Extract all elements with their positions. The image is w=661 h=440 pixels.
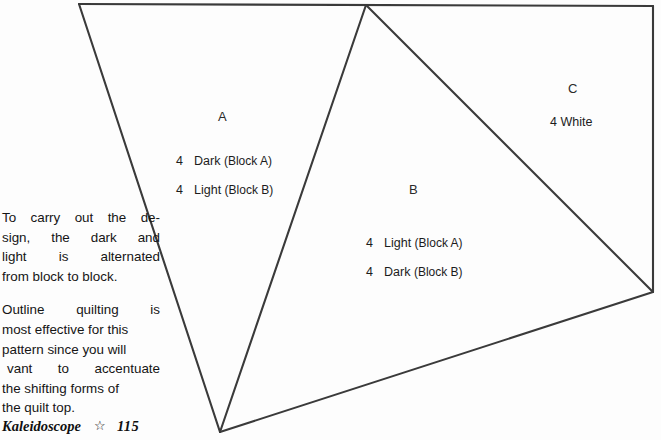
region-a-piece-2: 4Light (Block B) (176, 183, 273, 197)
region-b-piece-2-qty: 4 (366, 265, 384, 279)
region-b-piece-1-qty: 4 (366, 236, 384, 250)
bottom-edge (220, 292, 653, 432)
region-c-piece-1-qty: 4 (550, 115, 557, 129)
page-footer: Kaleidoscope☆115 (2, 418, 139, 435)
region-label-a: A (218, 109, 227, 124)
para2-line1: Outline quilting is (2, 300, 160, 320)
para2-line2: most effective for this (2, 320, 160, 340)
region-a-piece-1: 4Dark (Block A) (176, 154, 272, 168)
region-label-b: B (409, 182, 418, 197)
region-label-c: C (568, 81, 578, 96)
region-a-piece-1-qty: 4 (176, 154, 194, 168)
para2-line3: pattern since you will (2, 340, 160, 360)
region-a-piece-2-block: (Block B) (225, 183, 274, 197)
region-b-piece-1-shade: Light (384, 236, 411, 250)
paragraph-design-alternation: To carry out the de- sign, the dark and … (2, 208, 160, 286)
instruction-text-block: To carry out the de- sign, the dark and … (2, 208, 160, 418)
region-c-piece-1-shade: White (560, 115, 592, 129)
region-a-piece-2-shade: Light (194, 183, 221, 197)
page-canvas: A 4Dark (Block A) 4Light (Block B) B 4Li… (0, 0, 661, 440)
page-number: 115 (117, 418, 139, 434)
para1-line2: sign, the dark and (2, 228, 160, 248)
book-title: Kaleidoscope (2, 418, 81, 434)
region-c-piece-1: 4 White (550, 115, 592, 129)
region-a-piece-2-qty: 4 (176, 183, 194, 197)
para1-line1: To carry out the de- (2, 208, 160, 228)
para1-line3: light is alternated (2, 247, 160, 267)
paragraph-outline-quilting: Outline quilting is most effective for t… (2, 300, 160, 418)
region-a-piece-1-shade: Dark (194, 154, 220, 168)
para2-line5: the shifting forms of (2, 379, 160, 399)
para2-line4: vant to accentuate (2, 359, 160, 379)
region-a-piece-1-block: (Block A) (224, 154, 272, 168)
region-b-piece-1-block: (Block A) (415, 236, 463, 250)
region-b-piece-2-shade: Dark (384, 265, 410, 279)
region-b-piece-2: 4Dark (Block B) (366, 265, 463, 279)
center-left-edge (220, 5, 366, 432)
star-outline-icon: ☆ (81, 418, 117, 433)
para1-line4: from block to block. (2, 267, 160, 287)
region-b-piece-1: 4Light (Block A) (366, 236, 463, 250)
para2-line6: the quilt top. (2, 398, 160, 418)
region-b-piece-2-block: (Block B) (414, 265, 463, 279)
